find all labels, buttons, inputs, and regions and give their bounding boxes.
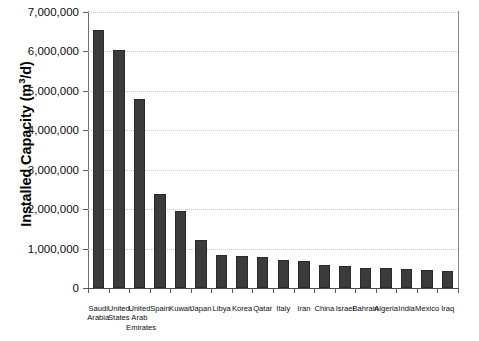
bar [93,30,105,288]
y-axis-title-superscript: 3 [16,79,27,84]
bar [216,255,228,288]
gridline [88,51,458,52]
bar [113,50,125,288]
y-axis-tick [83,91,88,92]
plot-area: 01,000,0002,000,0003,000,0004,000,0005,0… [88,12,458,288]
x-axis-tick [294,288,295,293]
bar [380,268,392,288]
bar [195,240,207,288]
x-axis-tick [252,288,253,293]
x-axis-tick [88,288,89,293]
bar [236,256,248,288]
y-axis-tick-label: 3,000,000 [28,164,79,176]
x-axis-tick [314,288,315,293]
bar [319,265,331,288]
bar [175,211,187,288]
y-axis-tick-label: 0 [73,282,79,294]
x-axis-tick [417,288,418,293]
bar [154,194,166,288]
x-axis-tick [232,288,233,293]
x-axis-tick [376,288,377,293]
gridline [88,91,458,92]
x-axis-tick-label: Iraq [434,304,461,313]
x-axis-tick [129,288,130,293]
bar [401,269,413,288]
x-axis-tick [170,288,171,293]
bar [134,99,146,288]
x-axis-tick [273,288,274,293]
bar [298,261,310,288]
y-axis-tick [83,130,88,131]
gridline [88,12,458,13]
plot-right-border [458,11,459,289]
y-axis-tick-label: 6,000,000 [28,45,79,57]
y-axis-tick-label: 1,000,000 [28,243,79,255]
y-axis-tick [83,51,88,52]
bar [257,257,269,288]
bar [278,260,290,288]
y-axis-tick [83,249,88,250]
x-axis-tick [335,288,336,293]
x-axis-tick [437,288,438,293]
y-axis-tick-label: 7,000,000 [28,6,79,18]
bar [421,270,433,288]
bar-chart: Installed Capacity (m3/d) 01,000,0002,00… [0,0,479,341]
x-axis-tick [355,288,356,293]
x-axis-tick [150,288,151,293]
y-axis-tick [83,209,88,210]
y-axis-tick-label: 2,000,000 [28,203,79,215]
x-axis-tick [396,288,397,293]
x-axis-tick [109,288,110,293]
y-axis-tick [83,12,88,13]
bar [442,271,454,288]
x-axis-tick [458,288,459,293]
y-axis-tick [83,170,88,171]
x-axis-tick [191,288,192,293]
y-axis-tick-label: 5,000,000 [28,85,79,97]
x-axis-tick [211,288,212,293]
bar [360,268,372,289]
bar [339,266,351,288]
y-axis-tick-label: 4,000,000 [28,124,79,136]
y-axis-title-suffix: /d) [18,61,34,78]
